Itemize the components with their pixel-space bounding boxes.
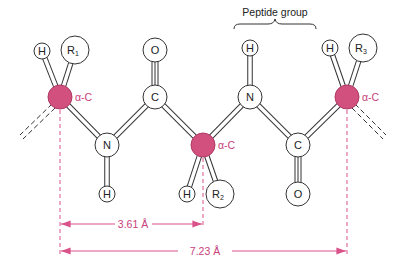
atom-labels: H R1 C O N H H R2 N H C O H R3 α-C α-C α… <box>38 42 380 201</box>
h3-label: H <box>326 42 334 54</box>
c1-label: C <box>151 91 159 103</box>
alpha-c-label-1: α-C <box>75 91 93 103</box>
alpha-carbon-1 <box>48 85 72 109</box>
dimension-guides <box>60 110 347 256</box>
peptide-group-brace <box>234 19 316 29</box>
n2-label: N <box>246 91 254 103</box>
peptide-diagram: Peptide group <box>0 0 410 264</box>
hn1-label: H <box>103 188 111 200</box>
peptide-group-label: Peptide group <box>242 6 308 18</box>
o2-label: O <box>294 188 303 200</box>
alpha-c-label-2: α-C <box>218 139 236 151</box>
o1-label: O <box>151 44 160 56</box>
h1-label: H <box>38 45 46 57</box>
alpha-c-label-3: α-C <box>362 91 380 103</box>
alpha-carbon-2 <box>191 133 215 157</box>
distance-label-7-23: 7.23 Å <box>190 245 220 257</box>
alpha-carbon-3 <box>335 85 359 109</box>
c2-label: C <box>294 139 302 151</box>
hn2-label: H <box>246 42 254 54</box>
h2-label: H <box>183 188 191 200</box>
distance-label-3-61: 3.61 Å <box>118 218 148 230</box>
n1-label: N <box>103 139 111 151</box>
